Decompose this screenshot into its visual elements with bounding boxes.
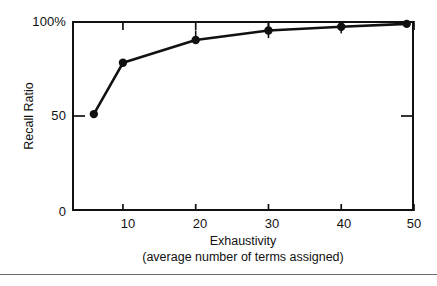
- tick-marks-group: [72, 21, 414, 211]
- series-line-recall-ratio: [94, 24, 407, 114]
- recall-ratio-figure: 100% 50 0 10 20 30 40 50 Recall Ratio Ex…: [0, 0, 437, 286]
- series-markers-group: [90, 20, 411, 119]
- footer-divider: [0, 274, 437, 275]
- plot-graphics: [0, 0, 437, 286]
